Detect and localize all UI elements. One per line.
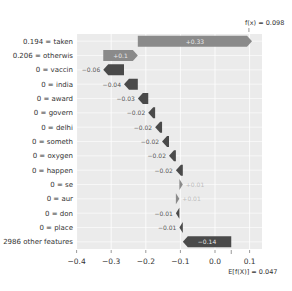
- feature-label: 0 = aur: [47, 195, 73, 203]
- fx-label: f(x) = 0.098: [245, 19, 284, 27]
- bar-value-label: −0.02: [127, 109, 146, 116]
- x-tick-label: −0.1: [171, 257, 189, 266]
- base-value-label: E[f(X)] = 0.047: [228, 268, 277, 276]
- feature-label: 0 = delhi: [41, 124, 73, 132]
- bar-value-label: +0.01: [182, 195, 201, 202]
- feature-label: 0 = someth: [32, 138, 73, 146]
- shap-waterfall-chart: −0.4−0.3−0.2−0.10.00.1+0.330.194 = taken…: [0, 0, 292, 291]
- bar-value-label: −0.01: [155, 210, 174, 217]
- feature-label: 0 = govern: [34, 109, 73, 117]
- bar-value-label: −0.02: [134, 124, 153, 131]
- x-tick-label: 0.0: [209, 257, 221, 266]
- feature-label: 0 = vaccin: [36, 66, 73, 74]
- bar-value-label: −0.04: [103, 81, 122, 88]
- feature-label: 0 = place: [39, 224, 73, 232]
- bar-value-label: −0.02: [141, 138, 160, 145]
- feature-label: 0 = india: [41, 81, 73, 89]
- feature-label: 0 = award: [37, 95, 73, 103]
- x-tick-label: 0.1: [244, 257, 256, 266]
- feature-label: 0 = happen: [32, 167, 73, 175]
- chart-canvas: −0.4−0.3−0.2−0.10.00.1+0.330.194 = taken…: [0, 0, 292, 291]
- x-tick-label: −0.2: [137, 257, 155, 266]
- x-tick-label: −0.4: [67, 257, 85, 266]
- feature-label: 0.194 = taken: [23, 38, 73, 46]
- x-tick-label: −0.3: [102, 257, 120, 266]
- bar-value-label: +0.1: [113, 52, 128, 59]
- bar-value-label: +0.01: [186, 181, 205, 188]
- bar-value-label: +0.33: [186, 38, 205, 45]
- feature-label: 0.206 = otherwis: [13, 52, 74, 60]
- feature-label: 2986 other features: [3, 238, 73, 246]
- bar-value-label: −0.03: [116, 95, 135, 102]
- feature-label: 0 = oxygen: [33, 152, 73, 160]
- feature-label: 0 = don: [45, 210, 73, 218]
- bar-value-label: −0.06: [82, 66, 101, 73]
- bar-value-label: −0.02: [148, 152, 167, 159]
- feature-label: 0 = se: [50, 181, 73, 189]
- bar-value-label: −0.02: [155, 167, 174, 174]
- bar-value-label: −0.01: [158, 224, 177, 231]
- bar-value-label: −0.14: [198, 238, 217, 245]
